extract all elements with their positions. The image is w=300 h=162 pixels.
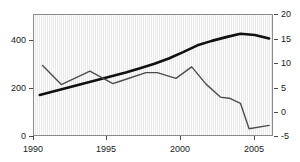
tick-mark-right-0 — [274, 112, 278, 113]
tick-mark-right-10 — [274, 63, 278, 64]
tick-mark-x-2005 — [254, 136, 255, 140]
x-tick-label-2005: 2005 — [234, 145, 274, 154]
plot-area — [33, 14, 273, 136]
x-tick-label-2000: 2000 — [160, 145, 200, 154]
tick-mark-x-1990 — [33, 136, 34, 140]
tick-mark-x-2000 — [180, 136, 181, 140]
plot-svg — [34, 15, 272, 135]
y-right-tick-label-15: 15 — [281, 35, 300, 44]
series-thin-gray-line — [43, 65, 270, 128]
series-thick-black-line — [40, 34, 269, 95]
y-right-tick-label-5: 5 — [281, 84, 300, 93]
tick-mark-x-1995 — [106, 136, 107, 140]
chart-figure: 400 200 0 20 15 10 5 0 -5 1990 1995 2000… — [0, 0, 300, 162]
y-left-tick-label-200: 200 — [0, 84, 26, 93]
tick-mark-right-neg5 — [274, 136, 278, 137]
y-right-tick-label-20: 20 — [281, 10, 300, 19]
x-tick-label-1995: 1995 — [86, 145, 126, 154]
tick-mark-right-20 — [274, 14, 278, 15]
y-left-tick-label-400: 400 — [0, 36, 26, 45]
y-right-tick-label-0: 0 — [281, 108, 300, 117]
x-tick-label-1990: 1990 — [13, 145, 53, 154]
y-right-tick-label-neg5: -5 — [281, 132, 300, 141]
y-right-tick-label-10: 10 — [281, 59, 300, 68]
tick-mark-left-400 — [29, 40, 33, 41]
tick-mark-left-200 — [29, 88, 33, 89]
tick-mark-right-15 — [274, 39, 278, 40]
y-left-tick-label-0: 0 — [0, 132, 26, 141]
tick-mark-right-5 — [274, 88, 278, 89]
